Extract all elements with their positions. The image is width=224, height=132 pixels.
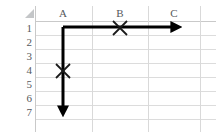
spreadsheet-illustration: A B C 1 2 3 4 5 6 7: [0, 0, 224, 132]
x-marker-column-b: [111, 19, 129, 37]
x-marker-row-4: [54, 62, 72, 80]
